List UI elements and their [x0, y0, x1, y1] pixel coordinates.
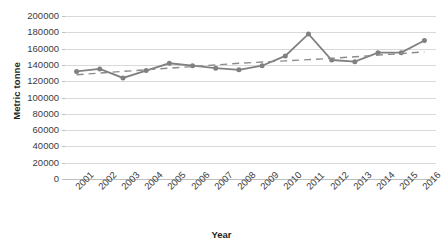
data-point-marker: [97, 66, 102, 71]
data-point-marker: [236, 67, 241, 72]
y-axis-tick-label: 160000: [0, 44, 59, 54]
data-point-marker: [120, 75, 125, 80]
data-point-marker: [283, 53, 288, 58]
data-point-marker: [352, 59, 357, 64]
y-axis-tick-label: 40000: [0, 141, 59, 151]
y-axis-tick-label: 140000: [0, 60, 59, 70]
data-point-marker: [167, 61, 172, 66]
x-axis-title: Year: [0, 229, 443, 240]
data-point-marker: [422, 38, 427, 43]
series-layer: [65, 16, 436, 179]
data-point-marker: [260, 63, 265, 68]
y-axis-tick-label: 80000: [0, 109, 59, 119]
y-axis-tick-label: 0: [0, 174, 59, 184]
data-point-marker: [213, 66, 218, 71]
data-point-marker: [190, 63, 195, 68]
y-axis-tick-label: 120000: [0, 76, 59, 86]
y-axis-tick-label: 200000: [0, 11, 59, 21]
data-point-marker: [144, 68, 149, 73]
y-axis-tick-label: 60000: [0, 125, 59, 135]
y-axis-tick-label: 180000: [0, 27, 59, 37]
y-axis-tick-label: 100000: [0, 93, 59, 103]
y-axis-tick-label: 20000: [0, 158, 59, 168]
chart-container: Metric tonne 020000400006000080000100000…: [0, 0, 443, 247]
data-point-marker: [306, 31, 311, 36]
y-axis-tick: [62, 179, 65, 180]
data-point-marker: [74, 69, 79, 74]
